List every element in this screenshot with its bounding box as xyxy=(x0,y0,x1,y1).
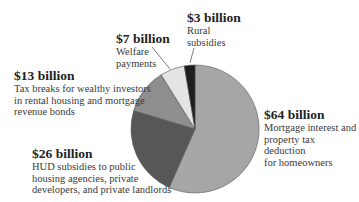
label-amount: $3 billion xyxy=(187,10,241,25)
label-3-billion: $3 billion Rural subsidies xyxy=(187,10,241,48)
label-amount: $26 billion xyxy=(32,146,171,161)
label-7-billion: $7 billion Welfare payments xyxy=(116,31,170,69)
label-13-billion: $13 billion Tax breaks for wealthy inves… xyxy=(14,68,151,118)
label-amount: $7 billion xyxy=(116,31,170,46)
label-description: Rural xyxy=(187,25,241,37)
label-description: in rental housing and mortgage xyxy=(14,95,151,107)
label-amount: $13 billion xyxy=(14,68,151,83)
label-64-billion: $64 billion Mortgage interest and proper… xyxy=(264,107,359,168)
label-description: housing agencies, private xyxy=(32,173,171,185)
label-description: for homeowners xyxy=(264,157,359,169)
label-description: Tax breaks for wealthy investors xyxy=(14,83,151,95)
label-description: Welfare xyxy=(116,46,170,58)
leader-line-3-billion xyxy=(190,48,194,63)
label-description: subsidies xyxy=(187,37,241,49)
label-amount: $64 billion xyxy=(264,107,359,122)
label-description: property tax deduction xyxy=(264,134,359,157)
label-26-billion: $26 billion HUD subsidies to public hous… xyxy=(32,146,171,196)
label-description: revenue bonds xyxy=(14,106,151,118)
label-description: developers, and private landlords xyxy=(32,184,171,196)
label-description: HUD subsidies to public xyxy=(32,161,171,173)
label-description: Mortgage interest and xyxy=(264,122,359,134)
